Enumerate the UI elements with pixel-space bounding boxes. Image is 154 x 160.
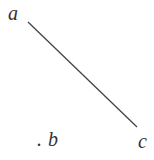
label-b: b (48, 128, 58, 150)
diagram-canvas: a . b c (0, 0, 154, 160)
label-a: a (8, 2, 18, 24)
segment-ac (28, 22, 137, 127)
point-b-dot: . (37, 128, 42, 150)
label-c: c (138, 130, 147, 152)
